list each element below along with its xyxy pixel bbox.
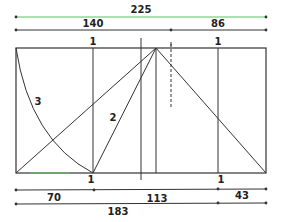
dimension-label-86: 86 [211, 18, 225, 29]
dimension-label-113: 113 [147, 193, 168, 204]
golden-section-diagram: 225 140 86 1 1 1 1 3 2 70 113 43 [0, 0, 282, 222]
diagonal-unit-2 [93, 48, 156, 173]
unit-mark-bottom-right: 1 [218, 174, 225, 185]
dimension-183: 183 [15, 202, 268, 217]
unit-mark-top-left: 1 [90, 36, 97, 47]
diagonal-left-corner [16, 48, 156, 173]
dimension-label-225: 225 [131, 4, 152, 15]
dimension-total-225: 225 [15, 4, 268, 18]
dimension-label-43: 43 [235, 190, 249, 201]
diagonal-right-corner [156, 48, 266, 173]
dimension-label-183: 183 [108, 206, 129, 217]
arc-3 [16, 48, 93, 173]
dimension-140-86: 140 86 [15, 18, 268, 31]
diagonal-label-2: 2 [110, 112, 117, 123]
unit-mark-top-right: 1 [215, 36, 222, 47]
unit-mark-bottom-left: 1 [88, 174, 95, 185]
arc-label-3: 3 [35, 96, 42, 107]
dimension-label-70: 70 [47, 192, 61, 203]
dimension-70-113-43: 70 113 43 [15, 188, 268, 204]
dimension-label-140: 140 [83, 18, 104, 29]
